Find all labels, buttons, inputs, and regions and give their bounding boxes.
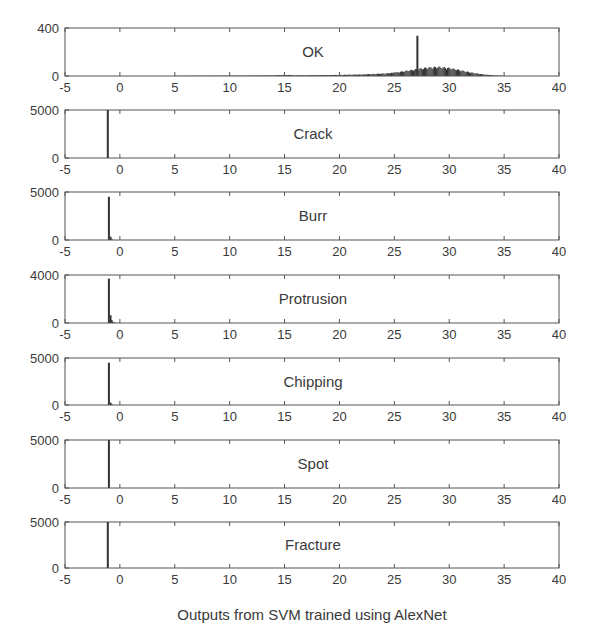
x-tick-label: 0 <box>116 409 123 424</box>
histogram-bar <box>423 69 424 76</box>
histogram-bar <box>424 68 425 76</box>
x-tick-label: -5 <box>59 244 71 259</box>
x-tick-label: 15 <box>277 572 291 587</box>
histogram-bar <box>469 73 470 76</box>
x-tick-label: -5 <box>59 162 71 177</box>
histogram-bar <box>463 71 464 76</box>
x-tick-label: 15 <box>277 492 291 507</box>
histogram-bar <box>442 68 443 76</box>
x-tick-label: 35 <box>497 492 511 507</box>
x-tick-label: 20 <box>332 572 346 587</box>
x-tick-label: -5 <box>59 327 71 342</box>
x-tick-label: 25 <box>387 327 401 342</box>
histogram-bar <box>437 68 438 76</box>
x-tick-label: -5 <box>59 572 71 587</box>
histogram-bar <box>468 72 469 76</box>
x-tick-label: 0 <box>116 327 123 342</box>
x-tick-label: 10 <box>222 572 236 587</box>
histogram-bar <box>434 67 435 76</box>
x-tick-label: 25 <box>387 244 401 259</box>
y-tick-label: 0 <box>52 398 59 413</box>
histogram-bar <box>408 71 409 76</box>
histogram-bar <box>403 72 404 76</box>
x-tick-label: 30 <box>442 80 456 95</box>
histogram-bar <box>397 72 398 76</box>
x-tick-label: 40 <box>552 80 566 95</box>
panel-title: Chipping <box>283 373 342 390</box>
x-tick-label: 40 <box>552 244 566 259</box>
panel-title: Fracture <box>285 536 341 553</box>
x-tick-label: 10 <box>222 80 236 95</box>
spike-bar <box>108 197 110 240</box>
y-tick-label: 4000 <box>30 268 59 283</box>
histogram-bar <box>454 69 455 76</box>
y-tick-label: 0 <box>52 151 59 166</box>
panel-spot: -5051015202530354005000Spot <box>30 433 566 507</box>
histogram-bar <box>400 72 401 76</box>
panel-fracture: -5051015202530354005000Fracture <box>30 515 566 587</box>
x-tick-label: 10 <box>222 244 236 259</box>
histogram-bar <box>401 71 402 76</box>
x-tick-label: 5 <box>171 162 178 177</box>
panel-ok: -505101520253035400400OK <box>37 21 566 95</box>
histogram-bar <box>444 67 445 76</box>
histogram-bar <box>453 68 454 76</box>
y-tick-label: 0 <box>52 316 59 331</box>
histogram-bar <box>436 68 437 76</box>
x-tick-label: 40 <box>552 162 566 177</box>
histogram-bar <box>457 69 458 76</box>
histogram-bar <box>427 69 428 76</box>
histogram-bar <box>429 67 430 76</box>
x-tick-label: 35 <box>497 327 511 342</box>
histogram-bar <box>445 68 446 76</box>
histogram-bar <box>418 69 419 76</box>
x-tick-label: 35 <box>497 162 511 177</box>
y-tick-label: 0 <box>52 481 59 496</box>
x-tick-label: 25 <box>387 409 401 424</box>
y-tick-label: 400 <box>37 21 59 36</box>
panel-protrusion: -5051015202530354004000Protrusion <box>30 268 566 342</box>
panel-chipping: -5051015202530354005000Chipping <box>30 351 566 424</box>
x-tick-label: 25 <box>387 572 401 587</box>
histogram-bar <box>413 71 414 76</box>
histogram-bar <box>466 72 467 76</box>
spike-bar <box>108 440 110 488</box>
y-tick-label: 0 <box>52 69 59 84</box>
x-tick-label: 10 <box>222 327 236 342</box>
histogram-bar <box>455 70 456 76</box>
x-tick-label: 0 <box>116 572 123 587</box>
y-tick-label: 5000 <box>30 103 59 118</box>
x-tick-label: 25 <box>387 80 401 95</box>
histogram-bar <box>404 71 405 76</box>
x-tick-label: 30 <box>442 492 456 507</box>
x-tick-label: 0 <box>116 244 123 259</box>
x-tick-label: 20 <box>332 162 346 177</box>
x-tick-label: -5 <box>59 492 71 507</box>
x-tick-label: 5 <box>171 244 178 259</box>
histogram-bar <box>405 71 406 76</box>
histogram-bar <box>459 70 460 76</box>
spike-bar <box>416 36 418 76</box>
panel-title: Protrusion <box>279 290 347 307</box>
histogram-bar <box>471 72 472 76</box>
histogram-bar <box>462 70 463 76</box>
y-tick-label: 5000 <box>30 433 59 448</box>
x-tick-label: 5 <box>171 80 178 95</box>
panel-title: Spot <box>298 455 330 472</box>
spike-bar <box>108 363 110 405</box>
histogram-bar <box>431 68 432 76</box>
x-axis-label: Outputs from SVM trained using AlexNet <box>177 606 447 623</box>
x-tick-label: 0 <box>116 80 123 95</box>
panel-title: OK <box>302 43 324 60</box>
histogram-bar <box>420 68 421 76</box>
x-tick-label: 25 <box>387 492 401 507</box>
histogram-bar <box>415 69 416 76</box>
panel-title: Crack <box>293 125 333 142</box>
spike-bar <box>107 110 109 158</box>
histogram-bar <box>406 71 407 76</box>
histogram-bar <box>414 70 415 76</box>
x-tick-label: 10 <box>222 162 236 177</box>
histogram-bar <box>458 70 459 76</box>
histogram-bar <box>411 70 412 76</box>
panel-crack: -5051015202530354005000Crack <box>30 103 566 177</box>
